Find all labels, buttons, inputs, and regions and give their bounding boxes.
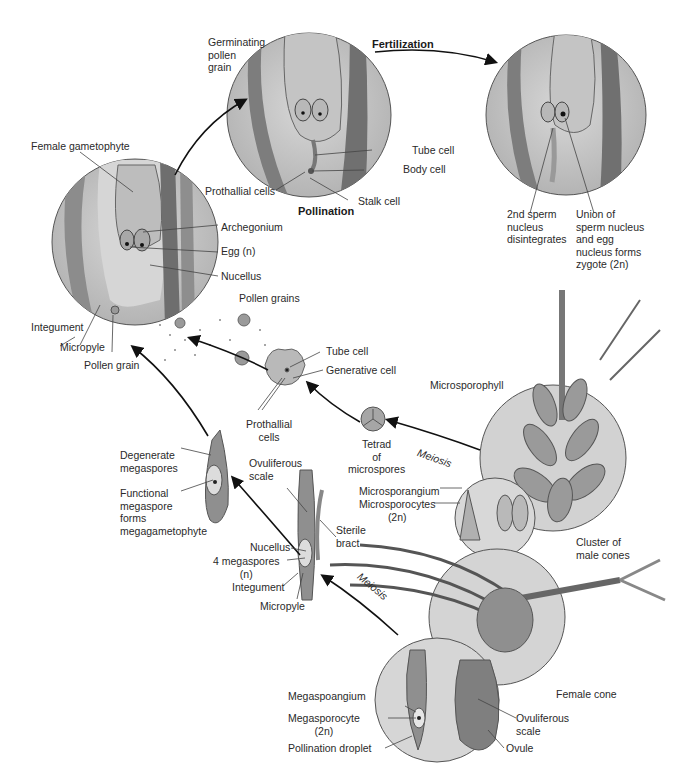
label-germinating-pollen-grain: Germinating pollen grain xyxy=(208,36,265,74)
label-generative-cell: Generative cell xyxy=(326,364,396,377)
female-cone-circle xyxy=(330,545,665,762)
label-pollen-grain: Pollen grain xyxy=(84,359,139,372)
label-integument-mid: Integument xyxy=(232,581,285,594)
label-ovule: Ovule xyxy=(506,742,533,755)
tetrad-microspores xyxy=(361,407,385,431)
label-nucellus-mid: Nucellus xyxy=(250,541,290,554)
female-gametophyte-circle xyxy=(52,159,218,325)
label-degenerate-megaspores: Degenerate megaspores xyxy=(120,449,178,474)
label-body-cell: Body cell xyxy=(403,163,446,176)
label-ovuliferous-scale-mid: Ovuliferous scale xyxy=(249,457,302,482)
label-stalk-cell: Stalk cell xyxy=(358,195,400,208)
label-nucellus-top: Nucellus xyxy=(221,270,261,283)
label-pollination-droplet: Pollination droplet xyxy=(288,742,371,755)
label-union-sperm-egg: Union of sperm nucleus and egg nucleus f… xyxy=(576,208,644,271)
label-prothallial-cells-top: Prothallial cells xyxy=(205,185,275,198)
label-ovuliferous-scale-bottom: Ovuliferous scale xyxy=(516,712,569,737)
label-tube-cell-mid: Tube cell xyxy=(326,345,368,358)
label-egg: Egg (n) xyxy=(221,245,255,258)
label-sterile-bract: Sterile bract xyxy=(336,524,366,549)
label-second-sperm-nucleus: 2nd sperm nucleus disintegrates xyxy=(507,208,567,246)
label-tetrad-microspores: Tetrad of microspores xyxy=(348,438,405,476)
label-functional-megaspore: Functional megaspore forms megagametophy… xyxy=(120,487,207,537)
label-micropyle-top: Micropyle xyxy=(60,341,105,354)
label-megasporangium: Megaspoangium xyxy=(288,690,366,703)
label-megasporocyte: Megasporocyte (2n) xyxy=(288,712,360,737)
stage-pollination: Pollination xyxy=(298,205,354,218)
label-microsporangium: Microsporangium xyxy=(359,485,440,498)
male-cone-circle xyxy=(455,290,660,558)
label-cluster-male-cones: Cluster of male cones xyxy=(576,536,630,561)
fertilization-circle xyxy=(486,30,646,195)
pine-life-cycle-illustration xyxy=(0,0,679,783)
megaspore-scale-left xyxy=(205,430,228,523)
label-four-megaspores: 4 megaspores (n) xyxy=(213,555,280,580)
label-prothallial-cells-mid: Prothallial cells xyxy=(246,418,292,443)
label-integument-top: Integument xyxy=(31,321,84,334)
label-pollen-grains: Pollen grains xyxy=(239,292,300,305)
pollen-grains xyxy=(175,314,305,385)
label-female-gametophyte: Female gametophyte xyxy=(31,140,130,153)
label-female-cone: Female cone xyxy=(556,688,617,701)
label-tube-cell-top: Tube cell xyxy=(412,144,454,157)
stage-fertilization: Fertilization xyxy=(372,38,434,51)
label-micropyle-mid: Micropyle xyxy=(260,600,305,613)
label-archegonium: Archegonium xyxy=(221,221,283,234)
label-microsporocytes: Microsporocytes (2n) xyxy=(359,498,435,523)
label-microsporophyll: Microsporophyll xyxy=(430,379,504,392)
